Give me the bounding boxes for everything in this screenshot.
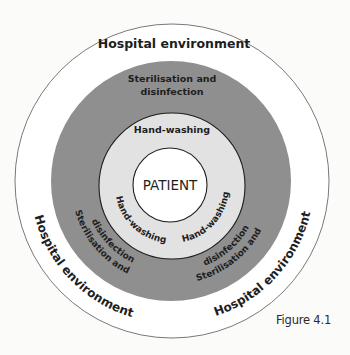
concentric-diagram: Hospital environment Sterilisation and d… [0,0,350,355]
patient-label: PATIENT [143,177,198,193]
hand-washing-label-top: Hand-washing [134,124,210,135]
hospital-environment-label-top: Hospital environment [98,36,251,51]
sterilisation-label-top-line2: disinfection [140,86,203,97]
figure-caption: Figure 4.1 [276,313,331,327]
sterilisation-label-top-line1: Sterilisation and [128,73,217,84]
